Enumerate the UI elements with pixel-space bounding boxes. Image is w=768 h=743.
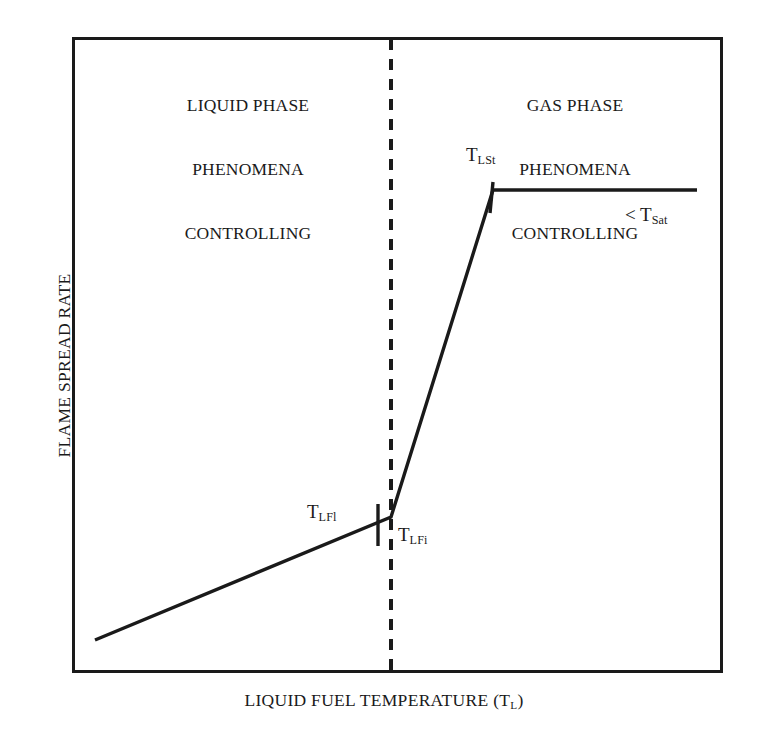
annotation-t-lst-sub: LSt (478, 153, 496, 167)
annotation-t-lfi: TLFi (398, 523, 427, 546)
region-gas-line-1: GAS PHASE (455, 95, 695, 116)
x-axis-title: LIQUID FUEL TEMPERATURE (TL) (0, 690, 768, 711)
annotation-t-lfl-sub: LFl (319, 510, 337, 524)
region-label-liquid-phase: LIQUID PHASE PHENOMENA CONTROLLING (123, 52, 373, 287)
x-axis-title-main: LIQUID FUEL TEMPERATURE (T (244, 690, 510, 710)
annotation-t-lfl: TLFl (307, 500, 336, 523)
annotation-t-lst: TLSt (466, 143, 495, 166)
region-liquid-line-3: CONTROLLING (123, 223, 373, 244)
annotation-t-sat-base: < T (625, 204, 652, 225)
annotation-t-sat: < TSat (625, 203, 668, 226)
annotation-t-lfi-base: T (398, 524, 410, 545)
annotation-t-lst-base: T (466, 144, 478, 165)
region-liquid-line-2: PHENOMENA (123, 159, 373, 180)
region-liquid-line-1: LIQUID PHASE (123, 95, 373, 116)
figure-container: LIQUID PHASE PHENOMENA CONTROLLING GAS P… (0, 0, 768, 743)
region-label-gas-phase: GAS PHASE PHENOMENA CONTROLLING (455, 52, 695, 287)
annotation-t-sat-sub: Sat (652, 213, 668, 227)
annotation-t-lfi-sub: LFi (410, 533, 428, 547)
annotation-t-lfl-base: T (307, 501, 319, 522)
x-axis-title-tail: ) (517, 690, 523, 710)
x-axis-title-sub: L (510, 699, 517, 711)
y-axis-title: FLAME SPREAD RATE (54, 206, 75, 526)
